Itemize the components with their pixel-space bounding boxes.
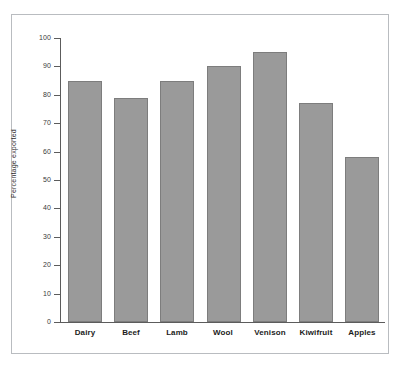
y-axis-title: Percentage exported: [10, 104, 17, 224]
y-axis-tick: [54, 123, 60, 124]
y-axis-tick: [54, 66, 60, 67]
y-axis-tick: [54, 265, 60, 266]
bar-beef: [114, 98, 148, 322]
x-axis-label-dairy: Dairy: [62, 329, 108, 337]
y-axis-tick-label: 10: [21, 290, 51, 297]
y-axis-tick-label: 40: [21, 204, 51, 211]
y-axis-tick-label: 50: [21, 176, 51, 183]
bar-venison: [253, 52, 287, 322]
bar-kiwifruit: [299, 103, 333, 322]
y-axis-tick-label: 80: [21, 91, 51, 98]
y-axis-tick: [54, 208, 60, 209]
x-axis-label-venison: Venison: [247, 329, 293, 337]
y-axis-tick-label: 100: [21, 34, 51, 41]
y-axis-tick-label: 30: [21, 233, 51, 240]
y-axis-tick-label: 60: [21, 148, 51, 155]
y-axis-tick-label: 20: [21, 261, 51, 268]
y-axis-tick: [54, 237, 60, 238]
chart-figure: Percentage exported 01020304050607080901…: [0, 0, 404, 372]
x-axis-label-wool: Wool: [200, 329, 246, 337]
y-axis-line: [60, 38, 61, 323]
y-axis-tick: [54, 294, 60, 295]
bar-wool: [207, 66, 241, 322]
x-axis-label-beef: Beef: [108, 329, 154, 337]
bar-dairy: [68, 81, 102, 322]
y-axis-tick-label: 0: [21, 318, 51, 325]
y-axis-tick: [54, 322, 60, 323]
y-axis-tick: [54, 95, 60, 96]
bar-lamb: [160, 81, 194, 322]
y-axis-tick-label: 70: [21, 119, 51, 126]
x-axis-label-kiwifruit: Kiwifruit: [293, 329, 339, 337]
y-axis-tick: [54, 38, 60, 39]
y-axis-tick: [54, 180, 60, 181]
x-axis-label-lamb: Lamb: [154, 329, 200, 337]
y-axis-tick-label: 90: [21, 62, 51, 69]
x-axis-label-apples: Apples: [339, 329, 385, 337]
y-axis-tick: [54, 152, 60, 153]
x-axis-line: [60, 322, 385, 323]
bar-apples: [345, 157, 379, 322]
